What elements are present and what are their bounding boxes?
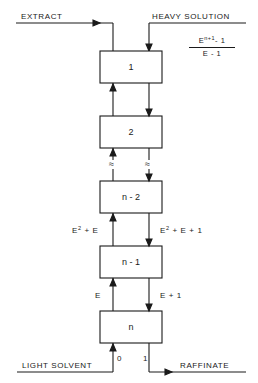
stage-label-2: 2 (100, 128, 162, 137)
flow-light-in: 0 (117, 355, 122, 363)
feed-numerator: En+1- 1 (189, 36, 235, 48)
feed-denominator: E - 1 (189, 48, 235, 58)
flow-heavy-out: 1 (143, 355, 148, 363)
flow-down-n2-n1: E2 + E + 1 (160, 226, 202, 235)
flow-up-n1-n: E (95, 292, 101, 300)
raffinate-label: RAFFINATE (180, 362, 229, 370)
extract-label: EXTRACT (21, 13, 63, 21)
heavy-solution-label: HEAVY SOLUTION (152, 13, 230, 21)
stage-label-n: n (100, 323, 162, 332)
feed-expression: En+1- 1 E - 1 (189, 36, 235, 57)
stage-label-n-2: n - 2 (100, 193, 162, 202)
light-solvent-label: LIGHT SOLVENT (22, 362, 92, 370)
raffinate-stream (149, 343, 246, 375)
stage-label-1: 1 (100, 63, 162, 72)
break-mark-left: ≈ (109, 160, 115, 169)
stage-label-n-1: n - 1 (100, 258, 162, 267)
flow-down-n1-n: E + 1 (160, 292, 182, 300)
break-mark-right: ≈ (145, 160, 151, 169)
extract-stream (16, 20, 113, 51)
flow-up-n2-n1: E2 + E (72, 226, 98, 235)
